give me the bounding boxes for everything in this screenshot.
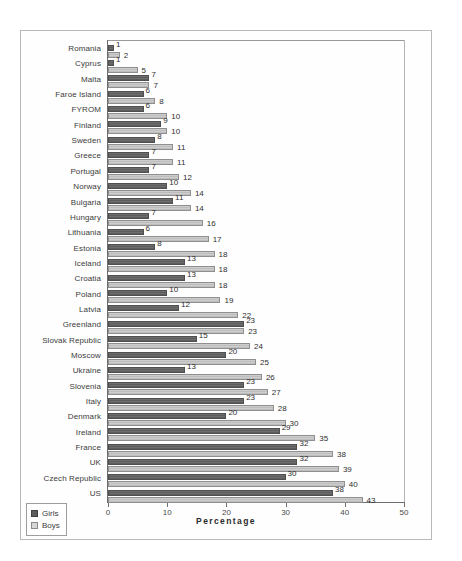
category-label: Malta: [81, 75, 101, 84]
bar-girls: [108, 290, 167, 296]
category-label: Slovenia: [70, 382, 102, 391]
bar-girls: [108, 60, 114, 66]
bar-value-girls: 6: [146, 224, 150, 233]
category-label: Romania: [68, 44, 101, 53]
bar-girls: [108, 305, 179, 311]
bar-value-girls: 13: [187, 254, 196, 263]
bar-girls: [108, 275, 185, 281]
bar-girls: [108, 167, 149, 173]
category-label: Greece: [74, 151, 101, 160]
bar-value-girls: 23: [246, 377, 255, 386]
bar-value-girls: 13: [187, 362, 196, 371]
category-label: Moscow: [71, 351, 101, 360]
category-label: Sweden: [71, 136, 101, 145]
category-label: Faroe Island: [55, 90, 101, 99]
bar-value-girls: 30: [288, 469, 297, 478]
category-label: Estonia: [74, 244, 101, 253]
bar-value-girls: 9: [163, 116, 167, 125]
bar-girls: [108, 45, 114, 51]
bar-value-girls: 1: [116, 40, 120, 49]
category-label: Czech Republic: [44, 474, 101, 483]
category-label: Bulgaria: [71, 198, 101, 207]
bar-value-girls: 10: [169, 285, 178, 294]
bar-value-boys: 43: [367, 496, 376, 505]
category-label: UK: [90, 458, 101, 467]
bar-girls: [108, 490, 333, 496]
category-label: Cyprus: [75, 59, 101, 68]
bar-girls: [108, 428, 280, 434]
bar-girls: [108, 352, 226, 358]
bar-value-girls: 1: [116, 55, 120, 64]
bar-value-girls: 29: [282, 423, 291, 432]
bar-value-girls: 38: [335, 485, 344, 494]
plot-border-top: [107, 40, 405, 41]
bar-value-girls: 6: [146, 86, 150, 95]
bar-girls: [108, 398, 244, 404]
bar-value-girls: 10: [169, 178, 178, 187]
bar-girls: [108, 75, 149, 81]
bar-girls: [108, 444, 297, 450]
bar-girls: [108, 229, 144, 235]
bar-girls: [108, 321, 244, 327]
category-label: Iceland: [75, 259, 102, 268]
bar-girls: [108, 121, 161, 127]
bar-girls: [108, 137, 155, 143]
x-axis-label: Percentage: [20, 516, 432, 526]
bar-value-girls: 7: [151, 147, 155, 156]
bar-girls: [108, 382, 244, 388]
bar-value-girls: 23: [246, 316, 255, 325]
bar-girls: [108, 413, 226, 419]
bar-boys: [108, 497, 363, 503]
bar-value-girls: 15: [199, 331, 208, 340]
bar-value-girls: 32: [299, 439, 308, 448]
chart-plot-area: 01020304050 Romania12Cyprus15Malta77Faro…: [20, 34, 432, 504]
figure-caption: [8, 547, 458, 561]
category-label: Portugal: [70, 167, 101, 176]
bar-girls: [108, 198, 173, 204]
bar-value-girls: 7: [151, 70, 155, 79]
bar-value-girls: 7: [151, 162, 155, 171]
category-label: FYROM: [72, 105, 101, 114]
category-label: Lithuania: [68, 228, 101, 237]
category-label: US: [90, 489, 101, 498]
category-label: Poland: [75, 290, 101, 299]
category-label: France: [76, 443, 102, 452]
bar-girls: [108, 459, 297, 465]
category-label: Denmark: [68, 412, 101, 421]
bar-value-girls: 13: [187, 270, 196, 279]
figure-page: 01020304050 Romania12Cyprus15Malta77Faro…: [0, 0, 462, 561]
category-label: Norway: [73, 182, 101, 191]
category-label: Latvia: [79, 305, 101, 314]
bar-girls: [108, 259, 185, 265]
bar-girls: [108, 183, 167, 189]
bar-value-girls: 20: [228, 408, 237, 417]
bar-girls: [108, 106, 144, 112]
bar-value-girls: 20: [228, 347, 237, 356]
category-label: Italy: [86, 397, 101, 406]
bar-value-girls: 6: [146, 101, 150, 110]
bar-value-girls: 8: [157, 239, 161, 248]
category-label: Slovak Republic: [42, 336, 101, 345]
bar-girls: [108, 474, 286, 480]
category-label: Ireland: [76, 428, 101, 437]
bar-row: US3843: [20, 487, 432, 505]
category-label: Ukraine: [73, 366, 101, 375]
bar-value-girls: 23: [246, 393, 255, 402]
bar-girls: [108, 244, 155, 250]
category-label: Finland: [74, 121, 101, 130]
bar-value-girls: 7: [151, 208, 155, 217]
category-label: Hungary: [70, 213, 101, 222]
bar-value-girls: 12: [181, 300, 190, 309]
bar-girls: [108, 336, 197, 342]
bar-value-girls: 11: [175, 193, 183, 202]
bar-value-girls: 8: [157, 132, 161, 141]
bar-girls: [108, 152, 149, 158]
bar-girls: [108, 91, 144, 97]
bar-girls: [108, 367, 185, 373]
bar-girls: [108, 213, 149, 219]
category-label: Greenland: [63, 320, 101, 329]
category-label: Croatia: [75, 274, 102, 283]
bar-value-girls: 32: [299, 454, 308, 463]
